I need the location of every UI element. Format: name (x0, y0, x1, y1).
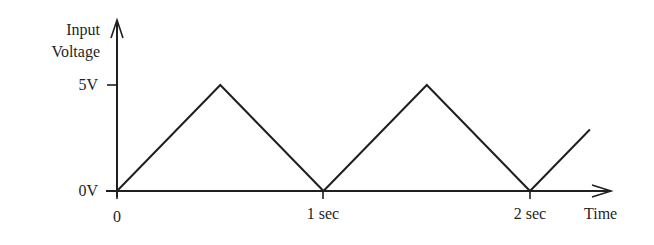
y-tick-label-0v: 0V (0, 182, 98, 200)
x-axis-label: Time (584, 205, 617, 223)
y-axis-label-line2: Voltage (0, 43, 100, 61)
y-axis-label-line1: Input (0, 21, 100, 39)
y-tick-label-5v: 5V (0, 76, 98, 94)
triangle-wave-line (117, 85, 590, 191)
x-tick-label-1sec: 1 sec (307, 205, 339, 223)
x-tick-label-0: 0 (113, 208, 121, 226)
x-tick-label-2sec: 2 sec (514, 205, 546, 223)
